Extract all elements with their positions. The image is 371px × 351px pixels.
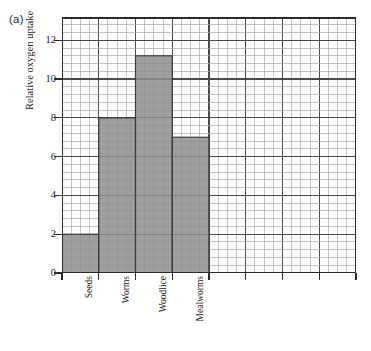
x-axis-category-labels: SeedsWormsWoodliceMealworms [62,278,356,348]
x-category-label-woodlice: Woodlice [158,276,170,346]
x-category-label-mealworms: Mealworms [195,276,207,346]
x-category-label-worms: Worms [121,276,133,346]
y-tick-label: 12 [34,35,56,45]
axis-frame [62,17,356,273]
x-category-label-seeds: Seeds [84,276,96,346]
y-tick-label: 4 [34,190,56,200]
y-tick-label: 6 [34,152,56,162]
y-tick-label: 10 [34,74,56,84]
plot-area [62,17,356,273]
figure-panel: (a) Relative oxygen uptake 024681012 See… [0,0,371,351]
y-axis-tick-labels: 024681012 [30,17,56,273]
panel-label: (a) [9,13,24,25]
y-tick-label: 8 [34,113,56,123]
y-tick-label: 2 [34,229,56,239]
y-tick-label: 0 [34,268,56,278]
